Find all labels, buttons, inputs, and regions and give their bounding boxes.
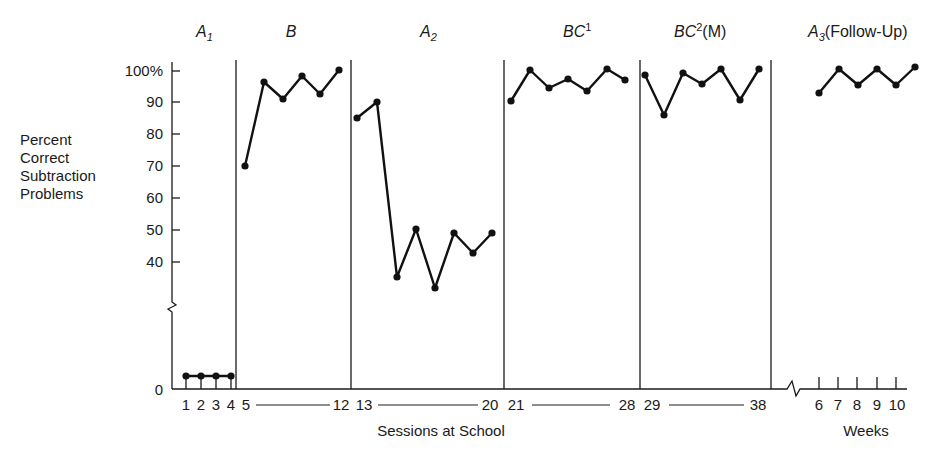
y-tick-labels: 100% 90 80 70 60 50 40 0 (125, 62, 163, 398)
data-point (393, 273, 400, 280)
data-point (507, 97, 514, 104)
x-tick-label: 1 (182, 396, 190, 413)
x-tick-label: 28 (619, 396, 636, 413)
data-point (227, 372, 234, 379)
data-point (873, 65, 880, 72)
data-point (911, 63, 918, 70)
x-tick-label: 21 (508, 396, 525, 413)
phase-label-a3: A3(Follow-Up) (807, 23, 907, 43)
y-tick-label: 80 (146, 125, 163, 142)
y-tick-label: 90 (146, 93, 163, 110)
data-point (316, 90, 323, 97)
data-point (431, 284, 438, 291)
x-tick-label: 9 (873, 396, 881, 413)
data-point (526, 66, 533, 73)
y-tick-label: 60 (146, 189, 163, 206)
series-bc2 (645, 69, 759, 115)
data-point (197, 372, 204, 379)
data-point (450, 229, 457, 236)
data-point (488, 229, 495, 236)
data-point (679, 69, 686, 76)
series-bc1 (511, 69, 625, 101)
data-lines (186, 67, 915, 376)
data-point (353, 114, 360, 121)
multiple-baseline-chart: 100% 90 80 70 60 50 40 0 1 2 3 4 5 12 13… (0, 0, 947, 461)
phase-label-a2: A2 (419, 23, 437, 43)
data-point (212, 372, 219, 379)
y-tick-label: 100% (125, 62, 163, 79)
x-tick-label: 8 (853, 396, 861, 413)
data-point (241, 162, 248, 169)
data-point (373, 98, 380, 105)
data-point (854, 81, 861, 88)
data-point (892, 81, 899, 88)
data-point (469, 249, 476, 256)
phase-label-bc2: BC2(M) (674, 21, 726, 40)
x-tick-label: 6 (815, 396, 823, 413)
axes (168, 60, 907, 405)
x-tick-label: 20 (482, 396, 499, 413)
y-tick-label: 70 (146, 157, 163, 174)
data-point (279, 95, 286, 102)
data-point (412, 225, 419, 232)
x-axis-title: Sessions at School (377, 422, 505, 439)
phase-label-a1: A1 (195, 23, 213, 43)
x-tick-label: 38 (750, 396, 767, 413)
data-point (736, 96, 743, 103)
y-tick-label: 50 (146, 221, 163, 238)
x-tick-label: 7 (834, 396, 842, 413)
data-point (815, 89, 822, 96)
data-point (583, 87, 590, 94)
x-axis-break (771, 381, 907, 396)
x-tick-label: 10 (889, 396, 906, 413)
data-point (835, 65, 842, 72)
x-tick-label: 3 (212, 396, 220, 413)
data-point (564, 75, 571, 82)
y-tick-label: 40 (146, 253, 163, 270)
x-tick-label: 2 (197, 396, 205, 413)
x-axis-title-weeks: Weeks (843, 422, 889, 439)
y-axis (168, 62, 176, 389)
data-point (717, 65, 724, 72)
data-point (260, 78, 267, 85)
x-tick-label: 5 (242, 396, 250, 413)
series-b (245, 70, 339, 166)
y-tick-label: 0 (155, 381, 163, 398)
x-tick-label: 4 (227, 396, 235, 413)
data-point (621, 76, 628, 83)
data-point (660, 111, 667, 118)
data-points (182, 63, 918, 379)
data-point (641, 71, 648, 78)
x-tick-label: 13 (356, 396, 373, 413)
data-point (755, 65, 762, 72)
phase-label-b: B (286, 23, 297, 40)
data-point (335, 66, 342, 73)
x-tick-label: 29 (644, 396, 661, 413)
data-point (698, 80, 705, 87)
phase-label-bc1: BC1 (563, 21, 591, 40)
data-point (545, 84, 552, 91)
series-a3 (819, 67, 915, 93)
data-point (603, 65, 610, 72)
data-point (298, 72, 305, 79)
series-a2 (357, 102, 492, 288)
x-tick-label: 12 (333, 396, 350, 413)
data-point (182, 372, 189, 379)
